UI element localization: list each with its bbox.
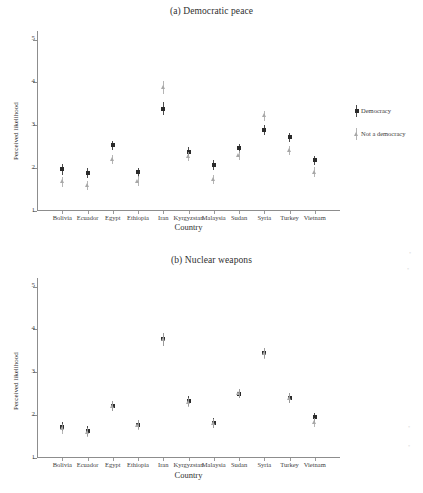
triangle-marker-icon: [262, 351, 266, 355]
square-marker-icon: [262, 128, 266, 132]
triangle-marker-icon: [85, 430, 89, 434]
legend-marker: [352, 104, 361, 118]
x-tick-label: Egypt: [105, 214, 121, 221]
triangle-marker-icon: [60, 179, 64, 183]
square-marker-icon: [288, 135, 292, 139]
x-tick-label: Vietnam: [304, 214, 326, 221]
scan-artifact: •: [407, 266, 409, 272]
panel-b-plot-area: 12345BoliviaEcuadorEgyptEthiopiaIranKyrg…: [37, 278, 340, 458]
triangle-marker-icon: [135, 423, 139, 427]
triangle-marker-icon: [85, 183, 89, 187]
square-marker-icon: [355, 109, 359, 113]
x-tick-label: Sudan: [231, 461, 247, 468]
legend-marker: [352, 127, 361, 141]
x-tick-label: Turkey: [280, 461, 299, 468]
legend-label: Not a democracy: [361, 127, 405, 137]
y-tick-label: 4: [32, 324, 36, 332]
triangle-marker-icon: [110, 404, 114, 408]
panel-a-y-axis-label: Perceived likelihood: [12, 102, 20, 160]
panel-b-y-axis-label: Perceived likelihood: [12, 352, 20, 410]
y-tick-label: 4: [32, 77, 36, 85]
x-tick-label: Egypt: [105, 461, 121, 468]
x-tick-label: Malaysia: [202, 214, 226, 221]
triangle-marker-icon: [262, 113, 266, 117]
x-tick-label: Ethiopia: [127, 461, 149, 468]
x-tick-label: Kyrgyzstan: [174, 214, 204, 221]
x-tick-label: Ethiopia: [127, 214, 149, 221]
triangle-marker-icon: [186, 400, 190, 404]
triangle-marker-icon: [287, 148, 291, 152]
panel-b-x-axis-label: Country: [37, 470, 340, 480]
triangle-marker-icon: [354, 132, 358, 136]
square-marker-icon: [161, 107, 165, 111]
panel-nuclear-weapons: (b) Nuclear weapons Perceived likelihood…: [0, 250, 423, 493]
panel-a-legend: DemocracyNot a democracy: [352, 104, 405, 150]
x-tick-label: Syria: [257, 214, 271, 221]
y-tick-label: 3: [32, 367, 36, 375]
panel-a-title: (a) Democratic peace: [0, 6, 423, 16]
x-tick-label: Vietnam: [304, 461, 326, 468]
triangle-marker-icon: [186, 154, 190, 158]
panel-a-plot-area: 12345BoliviaEcuadorEgyptEthiopiaIranKyrg…: [37, 31, 340, 211]
panel-b-y-axis-line: [37, 278, 38, 458]
triangle-marker-icon: [110, 157, 114, 161]
triangle-marker-icon: [312, 170, 316, 174]
y-tick-label: 1: [32, 206, 36, 214]
panel-democratic-peace: (a) Democratic peace Perceived likelihoo…: [0, 0, 423, 250]
y-tick-label: 2: [32, 163, 36, 171]
x-tick-label: Ecuador: [77, 214, 99, 221]
triangle-marker-icon: [312, 420, 316, 424]
square-marker-icon: [313, 158, 317, 162]
triangle-marker-icon: [60, 426, 64, 430]
x-tick-label: Bolivia: [53, 461, 72, 468]
triangle-marker-icon: [236, 153, 240, 157]
y-tick-label: 5: [32, 34, 36, 42]
triangle-marker-icon: [161, 337, 165, 341]
figure-two-panel-dotplot: (a) Democratic peace Perceived likelihoo…: [0, 0, 423, 493]
x-tick-label: Sudan: [231, 214, 247, 221]
y-tick-label: 5: [32, 281, 36, 289]
x-tick-label: Malaysia: [202, 461, 226, 468]
square-marker-icon: [212, 163, 216, 167]
square-marker-icon: [136, 170, 140, 174]
x-tick-label: Iran: [158, 461, 168, 468]
x-tick-label: Bolivia: [53, 214, 72, 221]
y-tick-label: 1: [32, 453, 36, 461]
legend-entry: Democracy: [352, 104, 405, 118]
triangle-marker-icon: [211, 177, 215, 181]
panel-a-x-axis-label: Country: [37, 222, 340, 232]
square-marker-icon: [111, 143, 115, 147]
triangle-marker-icon: [287, 396, 291, 400]
square-marker-icon: [60, 167, 64, 171]
legend-label: Democracy: [361, 104, 391, 114]
scan-artifact: •: [408, 424, 410, 430]
legend-entry: Not a democracy: [352, 127, 405, 141]
y-tick-label: 2: [32, 410, 36, 418]
x-tick-label: Ecuador: [77, 461, 99, 468]
x-tick-label: Iran: [158, 214, 168, 221]
scan-artifact: •: [408, 443, 410, 449]
x-tick-label: Turkey: [280, 214, 299, 221]
x-tick-label: Kyrgyzstan: [174, 461, 204, 468]
panel-b-title: (b) Nuclear weapons: [0, 255, 423, 265]
panel-a-y-axis-line: [37, 31, 38, 211]
triangle-marker-icon: [135, 179, 139, 183]
y-tick-label: 3: [32, 120, 36, 128]
scan-artifact: •: [409, 250, 411, 256]
triangle-marker-icon: [211, 421, 215, 425]
triangle-marker-icon: [161, 85, 165, 89]
triangle-marker-icon: [236, 391, 240, 395]
square-marker-icon: [86, 171, 90, 175]
x-tick-label: Syria: [257, 461, 271, 468]
